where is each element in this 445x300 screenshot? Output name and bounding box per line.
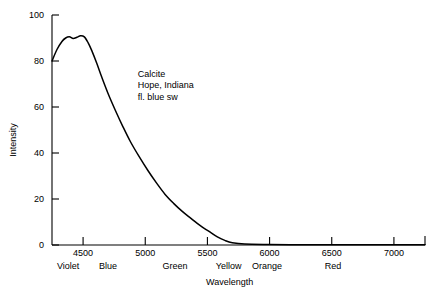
sample-annotation-line: Hope, Indiana [138,80,194,92]
spectral-band-label: Orange [237,261,297,271]
spectral-band-label: Red [303,261,363,271]
spectrum-chart-figure: Intensity 020406080100 45005000550060006… [0,0,445,300]
y-axis-tick-label: 20 [0,194,44,204]
x-axis-tick-label: 5000 [115,248,175,258]
y-axis-tick-label: 40 [0,148,44,158]
x-axis-tick-label: 7000 [364,248,424,258]
y-axis-tick-label: 60 [0,102,44,112]
spectral-band-label: Green [145,261,205,271]
y-axis-tick-label: 80 [0,56,44,66]
x-axis-tick-label: 6000 [240,248,300,258]
y-axis-tick-label: 100 [0,10,44,20]
x-axis-tick-label: 5500 [177,248,237,258]
x-axis-tick-label: 6500 [302,248,362,258]
x-axis-title: Wavelength [206,277,253,287]
spectral-band-label: Blue [78,261,138,271]
x-axis-tick-label: 4500 [53,248,113,258]
spectrum-curve [52,36,425,245]
sample-annotation-line: Calcite [138,69,194,81]
y-axis-tick-label: 0 [0,240,44,250]
axis-lines [52,15,425,245]
y-axis-ticks [52,15,59,245]
sample-annotation: CalciteHope, Indianafl. blue sw [138,69,194,104]
sample-annotation-line: fl. blue sw [138,92,194,104]
